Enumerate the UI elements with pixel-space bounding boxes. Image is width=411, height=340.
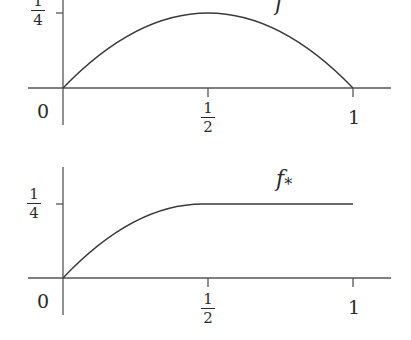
figure: 1 4 0 1 2 1 f 1 4 0 1 2 1 f* [0,0,411,340]
bottom-y-label-quarter: 1 4 [27,187,41,221]
bottom-plot [0,0,411,340]
bottom-x-label-half: 1 2 [201,292,215,326]
bottom-x-label-one: 1 [348,298,360,317]
bottom-origin-label: 0 [37,292,49,311]
curve-f-star [63,204,353,278]
bottom-curve-label: f* [276,168,292,193]
